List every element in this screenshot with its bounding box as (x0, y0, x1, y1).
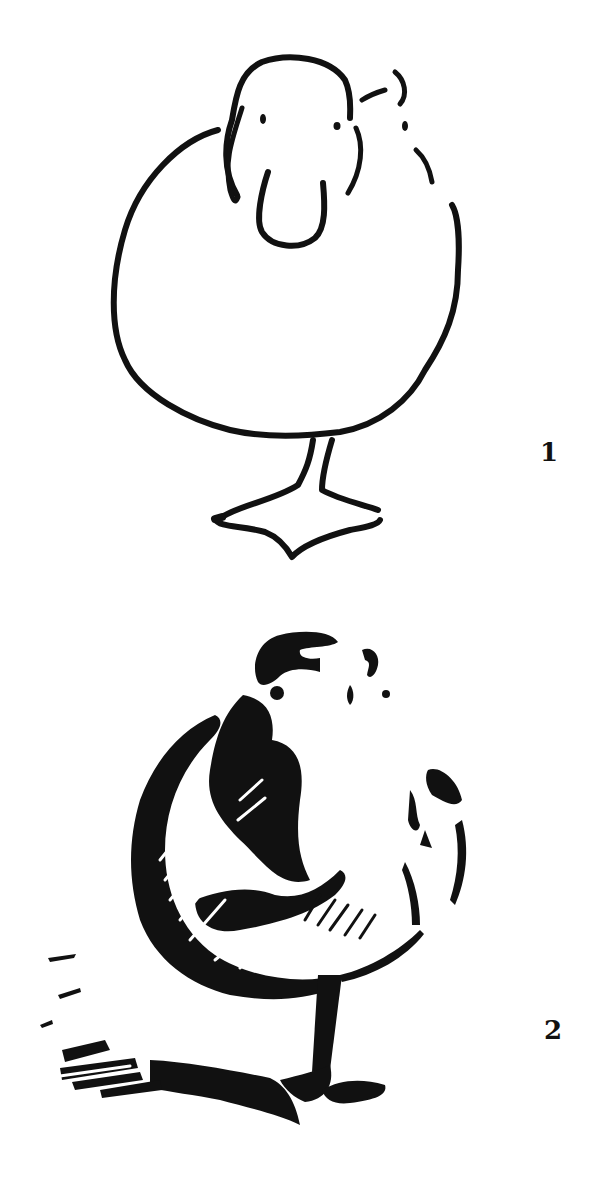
duck-outline-drawing (0, 0, 603, 600)
step-1-label: 1 (540, 439, 558, 465)
step-2-figure: 2 (0, 600, 603, 1194)
step-1-figure: 1 (0, 0, 603, 600)
duck-shaded-drawing (0, 600, 603, 1194)
step-2-label: 2 (544, 1017, 562, 1043)
